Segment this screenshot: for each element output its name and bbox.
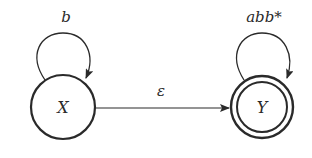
self-loop-x: b	[37, 8, 90, 80]
state-x: X	[31, 75, 95, 139]
transition-x-to-y: ε	[96, 82, 229, 108]
state-label-y: Y	[257, 98, 269, 117]
loop-label-y: abb*	[246, 8, 282, 26]
loop-label-x: b	[61, 8, 71, 26]
state-y: Y	[231, 76, 293, 138]
state-label-x: X	[55, 98, 69, 117]
automaton-diagram: b X ε abb* Y	[0, 0, 312, 158]
self-loop-y: abb*	[237, 8, 290, 80]
transition-label-epsilon: ε	[157, 82, 165, 100]
